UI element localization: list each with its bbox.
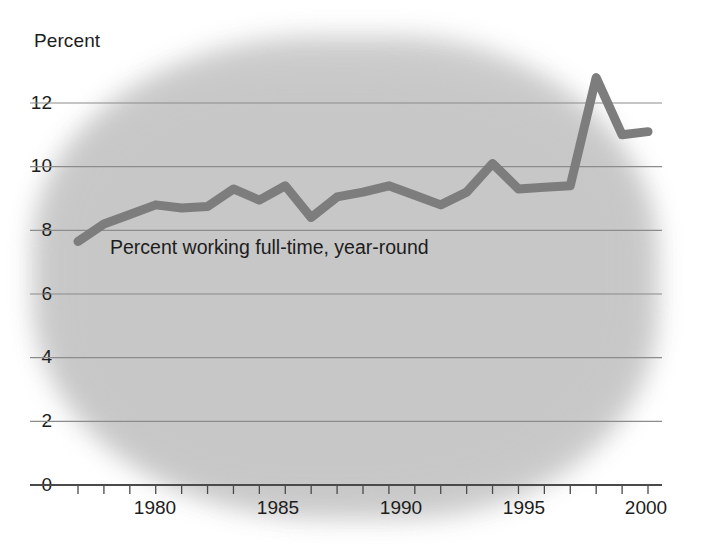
x-minor-ticks <box>78 486 648 494</box>
data-line-full-time-year-round <box>78 78 648 242</box>
series-annotation-label: Percent working full-time, year-round <box>110 236 429 259</box>
gridlines <box>30 103 662 485</box>
chart-canvas <box>0 0 702 554</box>
chart-figure: Percent 12 10 8 6 4 2 0 1980 1985 1990 1… <box>0 0 702 554</box>
